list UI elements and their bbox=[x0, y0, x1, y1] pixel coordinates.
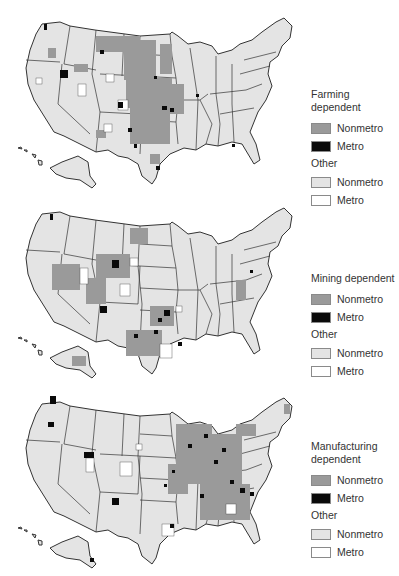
mining-legend: Mining dependent Nonmetro Metro Other No… bbox=[311, 272, 394, 381]
swatch-metro-dependent bbox=[311, 493, 331, 504]
legend-item-nonmetro-dependent: Nonmetro bbox=[311, 472, 391, 488]
swatch-nonmetro-dependent bbox=[311, 294, 331, 305]
legend-item-nonmetro-dependent: Nonmetro bbox=[311, 291, 394, 307]
swatch-nonmetro-dependent bbox=[311, 123, 331, 134]
swatch-nonmetro-dependent bbox=[311, 475, 331, 486]
swatch-other-metro bbox=[311, 547, 331, 558]
legend-item-metro-dependent: Metro bbox=[311, 309, 394, 325]
legend-item-other-nonmetro: Nonmetro bbox=[311, 526, 391, 542]
legend-item-nonmetro-dependent: Nonmetro bbox=[311, 120, 399, 136]
swatch-other-nonmetro bbox=[311, 348, 331, 359]
legend-title: Mining dependent bbox=[311, 272, 394, 285]
legend-item-metro-dependent: Metro bbox=[311, 138, 399, 154]
swatch-metro-dependent bbox=[311, 312, 331, 323]
manufacturing-legend: Manufacturing dependent Nonmetro Metro O… bbox=[311, 440, 391, 562]
legend-other-title: Other bbox=[311, 328, 394, 341]
legend-item-other-metro: Metro bbox=[311, 544, 391, 560]
farming-panel: Farming dependent Nonmetro Metro Other N… bbox=[0, 0, 399, 190]
swatch-other-metro bbox=[311, 366, 331, 377]
mining-panel: Mining dependent Nonmetro Metro Other No… bbox=[0, 190, 399, 380]
mining-map bbox=[0, 190, 300, 380]
legend-item-other-nonmetro: Nonmetro bbox=[311, 345, 394, 361]
legend-other-title: Other bbox=[311, 157, 399, 170]
legend-item-other-metro: Metro bbox=[311, 363, 394, 379]
legend-title: Manufacturing dependent bbox=[311, 440, 391, 466]
legend-title: Farming dependent bbox=[311, 88, 399, 114]
legend-item-other-nonmetro: Nonmetro bbox=[311, 174, 399, 190]
swatch-other-nonmetro bbox=[311, 177, 331, 188]
manufacturing-panel: Manufacturing dependent Nonmetro Metro O… bbox=[0, 380, 399, 576]
farming-map bbox=[0, 0, 300, 190]
legend-other-title: Other bbox=[311, 509, 391, 522]
swatch-other-nonmetro bbox=[311, 529, 331, 540]
legend-item-metro-dependent: Metro bbox=[311, 490, 391, 506]
swatch-metro-dependent bbox=[311, 141, 331, 152]
manufacturing-map bbox=[0, 380, 300, 576]
